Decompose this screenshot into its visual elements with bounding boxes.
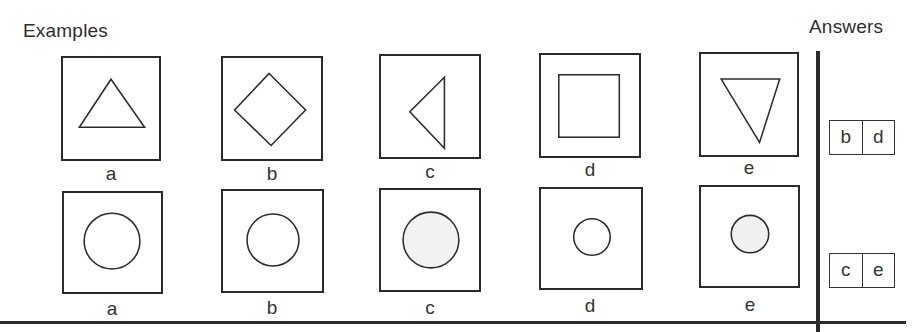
triangle-up-icon bbox=[63, 58, 159, 159]
circle-medium-icon bbox=[223, 191, 322, 291]
figure-label: a bbox=[61, 163, 161, 185]
bottom-divider-horizontal bbox=[0, 321, 906, 324]
triangle-left-icon bbox=[381, 56, 479, 157]
answer-cell: c bbox=[830, 254, 862, 287]
figure-row1-c bbox=[379, 54, 481, 159]
figure-row2-a bbox=[62, 191, 163, 294]
examples-heading: Examples bbox=[23, 20, 108, 42]
figure-label: c bbox=[380, 161, 480, 183]
answer-box-row1: b d bbox=[829, 120, 895, 155]
figure-row1-d bbox=[539, 53, 641, 158]
circle-small-icon bbox=[541, 189, 641, 288]
figure-label: b bbox=[222, 163, 322, 185]
figure-row1-b bbox=[221, 56, 323, 161]
figure-label: c bbox=[380, 297, 480, 319]
circle-shaded-small-icon bbox=[701, 187, 798, 286]
figure-label: b bbox=[222, 297, 322, 319]
triangle-down-icon bbox=[701, 54, 797, 155]
circle-shaded-large-icon bbox=[381, 190, 479, 290]
figure-label: e bbox=[699, 157, 799, 179]
answer-cell: d bbox=[862, 121, 895, 154]
circle-large-icon bbox=[64, 193, 161, 292]
diamond-icon bbox=[223, 58, 321, 159]
answer-box-row2: c e bbox=[829, 253, 895, 288]
figure-label: d bbox=[540, 159, 640, 181]
figure-row1-e bbox=[699, 52, 799, 157]
figure-row1-a bbox=[61, 56, 161, 161]
answers-heading: Answers bbox=[809, 16, 883, 38]
figure-label: e bbox=[700, 294, 800, 316]
figure-row2-e bbox=[699, 185, 800, 288]
figure-row2-d bbox=[539, 187, 643, 290]
figure-label: a bbox=[62, 298, 162, 320]
figure-row2-c bbox=[379, 188, 481, 292]
figure-row2-b bbox=[221, 189, 324, 293]
figure-label: d bbox=[540, 295, 640, 317]
answers-divider-vertical bbox=[816, 51, 820, 332]
square-icon bbox=[541, 55, 639, 156]
answer-cell: b bbox=[830, 121, 862, 154]
answer-cell: e bbox=[862, 254, 895, 287]
